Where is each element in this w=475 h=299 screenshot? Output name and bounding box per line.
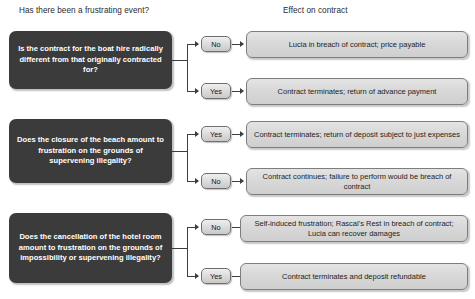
connector-split-1 <box>187 44 188 92</box>
question-box-2[interactable]: Does the closure of the beach amount to … <box>9 119 172 183</box>
decision-pill-2-yes[interactable]: Yes <box>201 126 231 142</box>
decision-pill-1-yes[interactable]: Yes <box>201 83 231 99</box>
question-box-1[interactable]: Is the contract for the boat hire radica… <box>9 31 172 89</box>
effect-box-1-no[interactable]: Lucia in breach of contract; price payab… <box>246 31 468 58</box>
flowchart-canvas: Has there been a frustrating event? Effe… <box>0 0 475 299</box>
arrow-icon-2-effect-lower <box>240 178 244 184</box>
question-box-3[interactable]: Does the cancellation of the hotel room … <box>9 213 172 283</box>
decision-pill-2-no[interactable]: No <box>201 173 231 189</box>
arrow-icon-2-upper <box>195 131 199 137</box>
column-heading-effect: Effect on contract <box>283 6 347 15</box>
arrow-icon-1-upper <box>195 41 199 47</box>
question-box-3-text: Does the cancellation of the hotel room … <box>15 232 166 263</box>
column-heading-question: Has there been a frustrating event? <box>19 6 149 15</box>
connector-stem-1 <box>172 60 187 61</box>
question-box-2-text: Does the closure of the beach amount to … <box>15 135 166 166</box>
arrow-icon-3-upper <box>195 224 199 230</box>
effect-box-2-yes-text: Contract terminates; return of deposit s… <box>254 130 460 140</box>
arrow-icon-1-effect-upper <box>240 41 244 47</box>
decision-pill-2-no-label: No <box>211 177 220 186</box>
arrow-icon-2-lower <box>195 178 199 184</box>
effect-box-2-no[interactable]: Contract continues; failure to perform w… <box>246 168 468 195</box>
effect-box-2-yes[interactable]: Contract terminates; return of deposit s… <box>246 121 468 148</box>
effect-box-1-yes[interactable]: Contract terminates; return of advance p… <box>246 78 468 105</box>
arrow-icon-3-lower <box>195 273 199 279</box>
connector-split-2 <box>187 134 188 182</box>
effect-box-3-yes-text: Contract terminates and deposit refundab… <box>282 272 426 282</box>
decision-pill-3-no-label: No <box>211 223 220 232</box>
effect-box-1-no-text: Lucia in breach of contract; price payab… <box>289 40 426 50</box>
decision-pill-1-no[interactable]: No <box>201 36 231 52</box>
effect-box-3-no[interactable]: Self-induced frustration; Rascal's Rest … <box>240 215 468 242</box>
decision-pill-3-no[interactable]: No <box>201 219 231 235</box>
decision-pill-1-yes-label: Yes <box>210 87 222 96</box>
arrow-icon-1-effect-lower <box>240 88 244 94</box>
decision-pill-3-yes[interactable]: Yes <box>201 268 231 284</box>
connector-stem-3 <box>172 248 187 249</box>
connector-split-3 <box>187 227 188 277</box>
effect-box-2-no-text: Contract continues; failure to perform w… <box>254 172 460 192</box>
connector-stem-2 <box>172 151 187 152</box>
decision-pill-3-yes-label: Yes <box>210 272 222 281</box>
question-box-1-text: Is the contract for the boat hire radica… <box>15 44 166 75</box>
effect-box-3-yes[interactable]: Contract terminates and deposit refundab… <box>240 263 468 290</box>
effect-box-3-no-text: Self-induced frustration; Rascal's Rest … <box>248 219 460 239</box>
decision-pill-2-yes-label: Yes <box>210 130 222 139</box>
effect-box-1-yes-text: Contract terminates; return of advance p… <box>278 87 437 97</box>
arrow-icon-2-effect-upper <box>240 131 244 137</box>
arrow-icon-1-lower <box>195 88 199 94</box>
decision-pill-1-no-label: No <box>211 40 220 49</box>
